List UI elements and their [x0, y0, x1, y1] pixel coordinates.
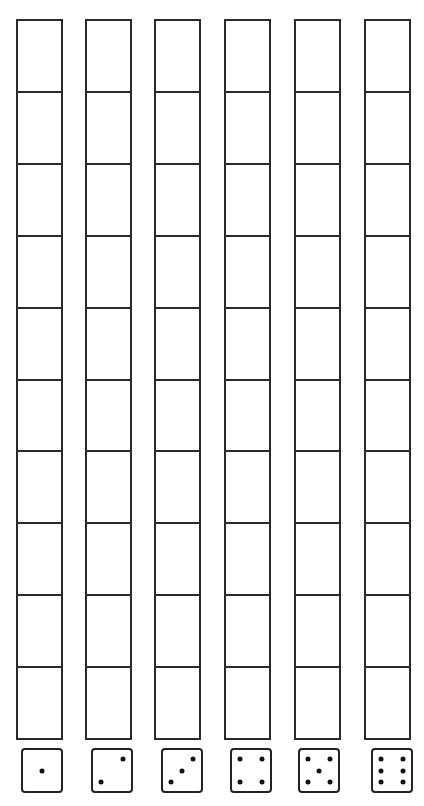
die-pip-icon	[306, 779, 311, 784]
graph-cell[interactable]	[87, 309, 130, 381]
die-pip-icon	[400, 757, 405, 762]
die-value-label: 3	[163, 750, 164, 751]
die-value-label: 1	[23, 750, 24, 751]
graph-cell[interactable]	[18, 93, 61, 165]
graph-cell[interactable]	[156, 165, 199, 237]
die-pip-icon	[400, 768, 405, 773]
graph-cell[interactable]	[296, 93, 339, 165]
graph-cell[interactable]	[87, 165, 130, 237]
graph-cell[interactable]	[226, 668, 269, 738]
graph-cell[interactable]	[366, 165, 409, 237]
graph-cell[interactable]	[156, 668, 199, 738]
graph-cell[interactable]	[296, 237, 339, 309]
graph-cell[interactable]	[226, 309, 269, 381]
graph-column-3	[154, 19, 201, 740]
graph-cell[interactable]	[156, 524, 199, 596]
graph-cell[interactable]	[87, 596, 130, 668]
die-pip-icon	[259, 757, 264, 762]
graph-cell[interactable]	[18, 21, 61, 93]
graph-cell[interactable]	[87, 381, 130, 453]
die-pip-icon	[379, 779, 384, 784]
die-face-3-icon: 3	[161, 748, 203, 793]
graph-cell[interactable]	[18, 165, 61, 237]
graph-cell[interactable]	[156, 381, 199, 453]
die-pip-icon	[306, 757, 311, 762]
die-face-4-icon: 4	[230, 748, 272, 793]
die-pip-icon	[169, 779, 174, 784]
graph-cell[interactable]	[156, 21, 199, 93]
graph-cell[interactable]	[226, 21, 269, 93]
graph-cell[interactable]	[156, 596, 199, 668]
graph-cell[interactable]	[226, 452, 269, 524]
die-pip-icon	[120, 757, 125, 762]
die-value-label: 5	[300, 750, 301, 751]
die-pip-icon	[180, 768, 185, 773]
die-pip-icon	[190, 757, 195, 762]
graph-cell[interactable]	[296, 596, 339, 668]
graph-cell[interactable]	[87, 93, 130, 165]
graph-cell[interactable]	[366, 93, 409, 165]
graph-cell[interactable]	[296, 309, 339, 381]
die-pip-icon	[400, 779, 405, 784]
graph-column-1	[16, 19, 63, 740]
graph-cell[interactable]	[296, 21, 339, 93]
graph-cell[interactable]	[18, 524, 61, 596]
graph-cell[interactable]	[366, 524, 409, 596]
die-face-1-icon: 1	[21, 748, 63, 793]
graph-cell[interactable]	[87, 524, 130, 596]
die-pip-icon	[317, 768, 322, 773]
graph-cell[interactable]	[366, 452, 409, 524]
graph-cell[interactable]	[87, 668, 130, 738]
die-pip-icon	[238, 779, 243, 784]
graph-cell[interactable]	[366, 21, 409, 93]
graph-cell[interactable]	[226, 93, 269, 165]
graph-cell[interactable]	[156, 237, 199, 309]
graph-cell[interactable]	[296, 165, 339, 237]
die-face-6-icon: 6	[371, 748, 413, 793]
die-pip-icon	[379, 757, 384, 762]
die-pip-icon	[99, 779, 104, 784]
die-pip-icon	[238, 757, 243, 762]
graph-cell[interactable]	[226, 165, 269, 237]
die-pip-icon	[327, 757, 332, 762]
graph-cell[interactable]	[366, 237, 409, 309]
graph-cell[interactable]	[87, 21, 130, 93]
graph-cell[interactable]	[87, 452, 130, 524]
graph-cell[interactable]	[226, 237, 269, 309]
graph-cell[interactable]	[156, 452, 199, 524]
graph-cell[interactable]	[226, 381, 269, 453]
graph-cell[interactable]	[18, 668, 61, 738]
graph-cell[interactable]	[296, 452, 339, 524]
graph-cell[interactable]	[156, 309, 199, 381]
die-pip-icon	[327, 779, 332, 784]
graph-cell[interactable]	[366, 309, 409, 381]
graph-cell[interactable]	[156, 93, 199, 165]
graph-cell[interactable]	[226, 596, 269, 668]
die-pip-icon	[379, 768, 384, 773]
die-value-label: 4	[232, 750, 233, 751]
graph-cell[interactable]	[18, 596, 61, 668]
graph-cell[interactable]	[87, 237, 130, 309]
graph-column-2	[85, 19, 132, 740]
graph-cell[interactable]	[366, 381, 409, 453]
graph-cell[interactable]	[296, 524, 339, 596]
die-value-label: 2	[93, 750, 94, 751]
graph-column-6	[364, 19, 411, 740]
graph-cell[interactable]	[18, 452, 61, 524]
graph-cell[interactable]	[296, 668, 339, 738]
graph-cell[interactable]	[366, 596, 409, 668]
graph-column-4	[224, 19, 271, 740]
graph-cell[interactable]	[18, 309, 61, 381]
die-value-label: 6	[373, 750, 374, 751]
die-face-2-icon: 2	[91, 748, 133, 793]
graph-cell[interactable]	[18, 381, 61, 453]
die-pip-icon	[40, 768, 45, 773]
graph-cell[interactable]	[296, 381, 339, 453]
graph-column-5	[294, 19, 341, 740]
die-pip-icon	[259, 779, 264, 784]
die-face-5-icon: 5	[298, 748, 340, 793]
graph-cell[interactable]	[366, 668, 409, 738]
graph-cell[interactable]	[18, 237, 61, 309]
graph-cell[interactable]	[226, 524, 269, 596]
